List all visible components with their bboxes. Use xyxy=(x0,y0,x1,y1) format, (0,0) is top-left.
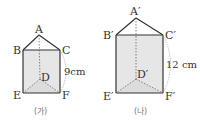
vertex-label-A: A xyxy=(34,23,44,36)
caption-left: (가) xyxy=(34,107,47,116)
vertex-label-E: E xyxy=(13,89,21,102)
height-label: 9cm xyxy=(64,66,86,77)
vertex-label-F: F xyxy=(62,89,70,102)
top-triangle-edges xyxy=(116,18,163,35)
prism-right: A′ B′ C′ D′ E′ F′ 12 cm (나) xyxy=(103,5,198,116)
vertex-label-C: C′ xyxy=(165,29,176,42)
top-triangle-edges xyxy=(23,35,60,50)
vertex-label-F: F′ xyxy=(165,90,176,103)
vertex-label-B: B xyxy=(13,44,21,57)
vertex-label-E: E′ xyxy=(103,90,114,103)
caption-right: (나) xyxy=(134,107,147,116)
prism-diagram: A B C D E F 9cm (가) A′ B′ C′ D′ E′ F′ 12… xyxy=(0,0,200,123)
vertex-label-A: A′ xyxy=(129,5,141,18)
prism-left: A B C D E F 9cm (가) xyxy=(13,23,86,116)
vertex-label-B: B′ xyxy=(103,29,114,42)
vertex-label-C: C xyxy=(62,44,70,57)
vertex-label-D: D xyxy=(41,71,50,84)
vertex-label-D: D′ xyxy=(137,68,149,81)
height-label: 12 cm xyxy=(166,59,198,70)
